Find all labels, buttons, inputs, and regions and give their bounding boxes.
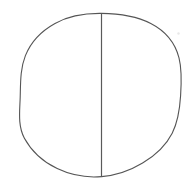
- figure-canvas: [0, 0, 193, 186]
- stray-speck: [177, 32, 179, 34]
- drawing-surface: [0, 0, 193, 186]
- canvas-background: [0, 0, 193, 186]
